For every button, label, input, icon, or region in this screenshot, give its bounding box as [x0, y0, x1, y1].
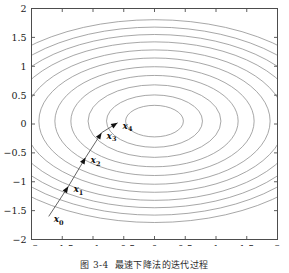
plot-frame	[32, 9, 278, 240]
caption-text: 最速下降法的迭代过程	[115, 260, 209, 270]
contour-lines-group	[0, 20, 289, 223]
axis-ticks-group	[32, 9, 278, 240]
figure-caption: 图 3-4最速下降法的迭代过程	[0, 258, 289, 271]
y-tick-label: −1	[12, 176, 26, 187]
iterate-arrowhead	[111, 121, 119, 129]
y-tick-label: −1.5	[3, 205, 26, 216]
iterate-arrowhead	[80, 156, 88, 164]
x-tick-label: −0.5	[112, 243, 135, 247]
iterate-label-x_2: x2	[90, 155, 101, 167]
axes-frame	[32, 9, 278, 240]
iterate-labels-group: x0x1x2x3x4	[53, 121, 133, 227]
iterate-label-x_1: x1	[72, 184, 83, 196]
y-tick-label: 0	[20, 118, 26, 129]
y-tick-label: 0.5	[11, 90, 26, 101]
y-tick-label: 1.5	[11, 32, 26, 43]
contour-plot-svg: −2−1.5−1−0.500.511.52−2−1.5−1−0.500.511.…	[0, 0, 289, 246]
x-tick-label: −2	[24, 243, 38, 247]
caption-number: 图 3-4	[80, 260, 108, 270]
iterate-label-x_0: x0	[53, 214, 64, 226]
x-tick-label: 1.5	[239, 243, 254, 247]
iterate-label-x_3: x3	[106, 131, 117, 143]
y-tick-label: −0.5	[3, 147, 26, 158]
plot-area: −2−1.5−1−0.500.511.52−2−1.5−1−0.500.511.…	[0, 0, 289, 246]
iterate-label-x_4: x4	[122, 121, 133, 133]
x-tick-label: 1	[213, 243, 219, 247]
x-tick-label: 0	[151, 243, 157, 247]
x-tick-label: −1.5	[51, 243, 74, 247]
x-tick-label: 0.5	[178, 243, 193, 247]
y-tick-label: 2	[20, 3, 26, 14]
y-tick-label: 1	[20, 61, 26, 72]
figure-container: −2−1.5−1−0.500.511.52−2−1.5−1−0.500.511.…	[0, 0, 289, 273]
y-tick-label: −2	[12, 234, 26, 245]
x-tick-label: 2	[274, 243, 280, 247]
x-tick-label: −1	[86, 243, 100, 247]
